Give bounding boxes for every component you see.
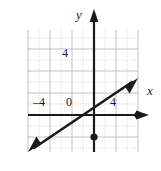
point-x-intercept: [134, 111, 141, 118]
point-y-intercept: [90, 133, 97, 140]
x-tick-label-negative-four: –4: [33, 96, 45, 108]
x-tick-label-four: 4: [110, 96, 116, 108]
y-axis: [90, 9, 99, 152]
graph-figure: y x –4 0 4 4: [0, 0, 161, 171]
origin-label-zero: 0: [66, 96, 72, 108]
y-axis-label: y: [76, 8, 82, 21]
coordinate-plane: [28, 30, 138, 152]
y-tick-label-four: 4: [62, 47, 68, 59]
plot-content: [28, 30, 138, 152]
x-axis-label: x: [147, 84, 153, 97]
